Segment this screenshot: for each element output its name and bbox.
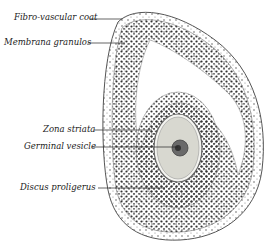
label-discus-proligerus: Discus proligerus <box>20 182 96 192</box>
follicle-diagram: Fibro-vascular coat Membrana granulos Zo… <box>0 0 275 250</box>
germinal-spot <box>175 145 181 151</box>
label-zona-striata: Zona striata <box>43 124 95 134</box>
label-germinal-vesicle: Germinal vesicle <box>24 141 96 151</box>
label-fibro-vascular-coat: Fibro-vascular coat <box>14 12 98 22</box>
label-membrana-granulos: Membrana granulos <box>4 37 91 47</box>
